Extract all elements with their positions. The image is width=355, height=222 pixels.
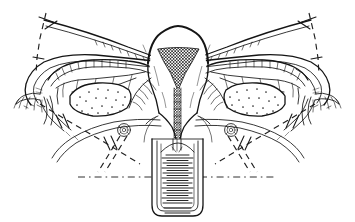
anatomy-drawing-canvas [0,0,355,222]
vagina [152,139,203,216]
ovary-left [70,83,131,116]
anatomy-figure: Coronal section of the uterus, uterine t… [0,0,355,222]
ovary-right [224,83,285,116]
cervical-canal [174,88,181,138]
